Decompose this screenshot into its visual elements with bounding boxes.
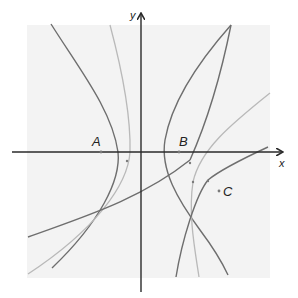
y-axis-label: y	[129, 9, 137, 21]
point-a-label: A	[91, 134, 101, 149]
curve-dot	[126, 160, 128, 162]
point-b-label: B	[179, 134, 188, 149]
x-axis-label: x	[278, 157, 285, 169]
curve-dot	[192, 181, 194, 183]
point-c-label: C	[223, 184, 233, 199]
curve-dot	[189, 162, 191, 164]
point-c-marker	[218, 190, 221, 193]
point-a-marker	[100, 151, 103, 154]
coordinate-diagram: x y A B C	[0, 0, 298, 298]
point-b-marker	[178, 151, 181, 154]
curve-dot	[207, 180, 209, 182]
